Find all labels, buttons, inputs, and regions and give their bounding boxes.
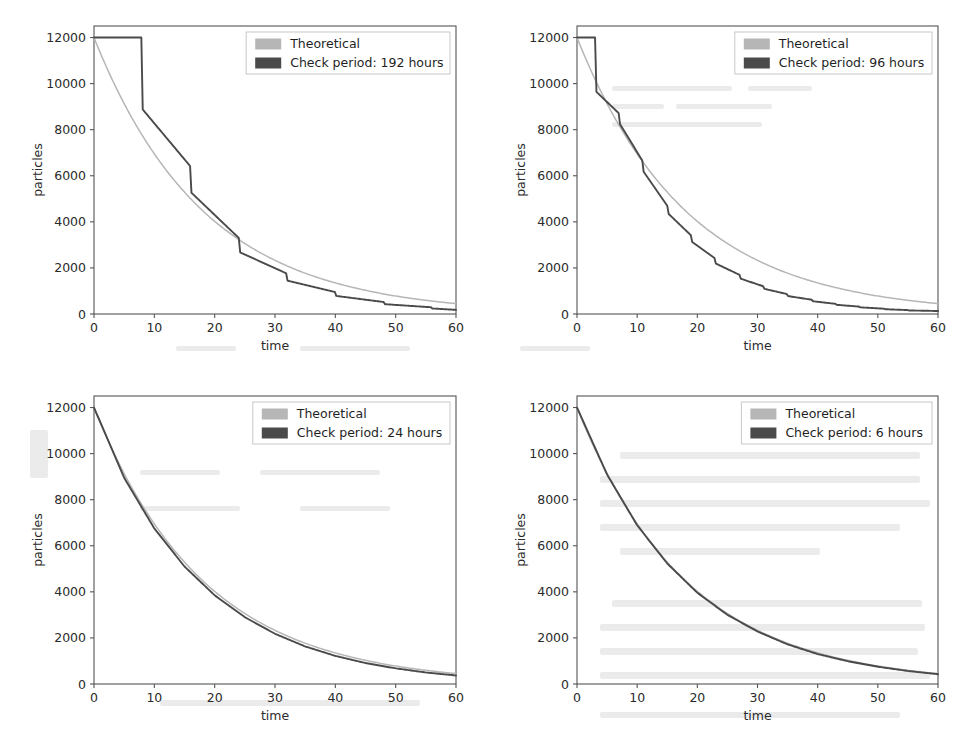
x-tick-label: 0 (573, 320, 581, 335)
y-axis-label: particles (513, 143, 528, 197)
x-tick-label: 60 (448, 320, 464, 335)
series-line-theoretical (577, 38, 938, 304)
chart-canvas: 0200040006000800010000120000102030405060… (483, 0, 965, 370)
chart-canvas: 0200040006000800010000120000102030405060… (0, 370, 483, 740)
chart-canvas: 0200040006000800010000120000102030405060… (483, 370, 965, 740)
subplot-bottom-right: 0200040006000800010000120000102030405060… (483, 370, 965, 740)
x-axis: 0102030405060 (90, 314, 464, 335)
y-tick-label: 4000 (54, 584, 86, 599)
x-axis: 0102030405060 (573, 684, 946, 705)
x-tick-label: 0 (573, 690, 581, 705)
x-tick-label: 50 (388, 690, 404, 705)
y-tick-label: 6000 (537, 538, 569, 553)
x-tick-label: 20 (207, 690, 223, 705)
x-axis-label: time (743, 338, 772, 353)
x-tick-label: 10 (146, 690, 162, 705)
legend-swatch-simulated (262, 428, 288, 439)
x-tick-label: 60 (448, 690, 464, 705)
y-tick-label: 12000 (529, 400, 569, 415)
series-line-simulated (577, 408, 938, 675)
legend-swatch-theoretical (750, 409, 776, 420)
x-axis-label: time (261, 708, 290, 723)
y-tick-label: 10000 (529, 446, 569, 461)
x-tick-label: 30 (750, 690, 766, 705)
y-tick-label: 4000 (537, 584, 569, 599)
y-tick-label: 4000 (537, 214, 569, 229)
y-tick-label: 0 (561, 677, 569, 692)
y-tick-label: 6000 (54, 168, 86, 183)
y-tick-label: 10000 (46, 446, 86, 461)
y-axis-label: particles (513, 513, 528, 567)
y-tick-label: 2000 (54, 260, 86, 275)
x-tick-label: 0 (90, 690, 98, 705)
x-tick-label: 40 (327, 690, 343, 705)
y-tick-label: 8000 (537, 122, 569, 137)
chart-canvas: 0200040006000800010000120000102030405060… (0, 0, 483, 370)
legend: TheoreticalCheck period: 6 hours (741, 402, 932, 444)
y-tick-label: 12000 (46, 30, 86, 45)
legend-label: Theoretical (784, 406, 855, 421)
y-tick-label: 8000 (537, 492, 569, 507)
y-axis-label: particles (30, 143, 45, 197)
y-axis: 020004000600080001000012000 (529, 30, 577, 321)
x-axis: 0102030405060 (573, 314, 946, 335)
x-tick-label: 20 (207, 320, 223, 335)
series-line-simulated (94, 38, 456, 310)
y-tick-label: 2000 (54, 630, 86, 645)
y-tick-label: 12000 (529, 30, 569, 45)
legend-swatch-theoretical (255, 39, 281, 50)
y-axis: 020004000600080001000012000 (46, 400, 94, 691)
y-axis: 020004000600080001000012000 (529, 400, 577, 691)
legend-label: Check period: 24 hours (297, 425, 442, 440)
y-tick-label: 4000 (54, 214, 86, 229)
legend: TheoreticalCheck period: 96 hours (735, 32, 932, 74)
x-tick-label: 50 (870, 320, 886, 335)
legend-label: Theoretical (289, 36, 360, 51)
x-tick-label: 40 (810, 690, 826, 705)
x-tick-label: 20 (689, 320, 705, 335)
y-tick-label: 2000 (537, 630, 569, 645)
series-line-simulated (94, 408, 456, 676)
legend-swatch-simulated (744, 58, 770, 69)
figure-grid: 0200040006000800010000120000102030405060… (0, 0, 965, 740)
y-tick-label: 0 (78, 307, 86, 322)
series-line-theoretical (577, 408, 938, 674)
subplot-bottom-left: 0200040006000800010000120000102030405060… (0, 370, 483, 740)
subplot-top-left: 0200040006000800010000120000102030405060… (0, 0, 483, 370)
x-axis: 0102030405060 (90, 684, 464, 705)
x-tick-label: 50 (388, 320, 404, 335)
x-tick-label: 60 (930, 320, 946, 335)
series-line-simulated (577, 38, 938, 311)
legend-swatch-theoretical (744, 39, 770, 50)
y-tick-label: 8000 (54, 122, 86, 137)
series-line-theoretical (94, 38, 456, 304)
y-axis-label: particles (30, 513, 45, 567)
x-tick-label: 40 (327, 320, 343, 335)
y-tick-label: 6000 (537, 168, 569, 183)
y-tick-label: 0 (561, 307, 569, 322)
x-tick-label: 30 (267, 690, 283, 705)
y-tick-label: 0 (78, 677, 86, 692)
legend: TheoreticalCheck period: 24 hours (253, 402, 450, 444)
subplot-top-right: 0200040006000800010000120000102030405060… (483, 0, 965, 370)
legend-label: Check period: 6 hours (785, 425, 923, 440)
x-axis-label: time (743, 708, 772, 723)
y-tick-label: 2000 (537, 260, 569, 275)
legend-swatch-simulated (255, 58, 281, 69)
y-tick-label: 6000 (54, 538, 86, 553)
legend-label: Check period: 192 hours (290, 55, 443, 70)
x-tick-label: 10 (629, 320, 645, 335)
legend-label: Theoretical (296, 406, 367, 421)
legend-label: Check period: 96 hours (779, 55, 924, 70)
x-tick-label: 10 (146, 320, 162, 335)
y-tick-label: 10000 (46, 76, 86, 91)
x-axis-label: time (261, 338, 290, 353)
x-tick-label: 40 (810, 320, 826, 335)
legend-swatch-theoretical (262, 409, 288, 420)
y-tick-label: 12000 (46, 400, 86, 415)
legend-label: Theoretical (778, 36, 849, 51)
y-axis: 020004000600080001000012000 (46, 30, 94, 321)
x-tick-label: 60 (930, 690, 946, 705)
legend: TheoreticalCheck period: 192 hours (246, 32, 450, 74)
x-tick-label: 50 (870, 690, 886, 705)
